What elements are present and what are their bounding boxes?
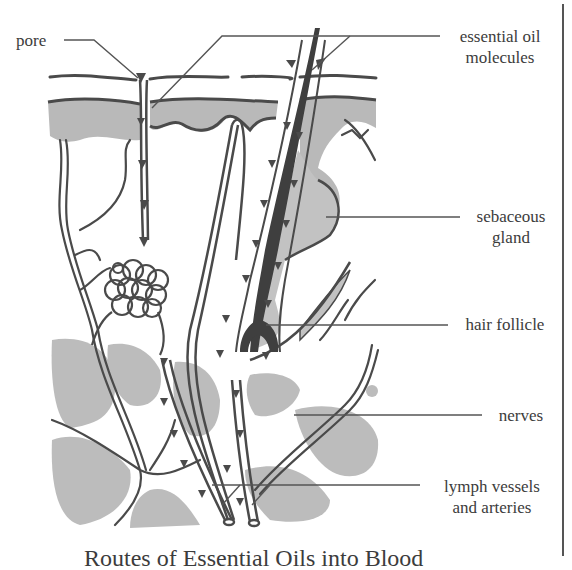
- label-sebaceous-line1: sebaceous: [466, 206, 556, 227]
- pore-leader: [64, 40, 138, 78]
- label-nerves: nerves: [490, 405, 552, 426]
- label-pore: pore: [16, 30, 46, 51]
- oil-leader-right: [312, 36, 350, 70]
- label-pore-text: pore: [16, 31, 46, 50]
- figure-caption: Routes of Essential Oils into Blood: [84, 544, 423, 570]
- label-sebaceous-gland: sebaceous gland: [466, 206, 556, 248]
- label-lymph-line1: lymph vessels: [430, 476, 554, 497]
- label-nerves-text: nerves: [490, 405, 552, 426]
- page-margin-rule: [562, 4, 564, 556]
- label-hair-follicle-text: hair follicle: [455, 314, 555, 335]
- sweat-gland-coil: [92, 260, 168, 355]
- label-sebaceous-line2: gland: [466, 227, 556, 248]
- label-essential-oil-line1: essential oil: [445, 26, 555, 47]
- skin-surface: [50, 75, 376, 80]
- label-hair-follicle: hair follicle: [455, 314, 555, 335]
- label-lymph-vessels-arteries: lymph vessels and arteries: [430, 476, 554, 518]
- label-essential-oil-line2: molecules: [445, 47, 555, 68]
- label-essential-oil-molecules: essential oil molecules: [445, 26, 555, 68]
- label-lymph-line2: and arteries: [430, 497, 554, 518]
